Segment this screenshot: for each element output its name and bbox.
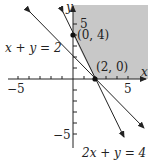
graph-canvas: y x 5 −5 −5 5 (0, 4) (2, 0) x + y = 2 2x… [0, 0, 151, 160]
y-axis-label: y [65, 0, 73, 14]
x-axis-label: x [141, 65, 148, 79]
tick-label-y-neg5: −5 [53, 128, 71, 142]
point-label-2-0: (2, 0) [96, 60, 128, 74]
point-2-0 [92, 76, 97, 81]
line-label-2x-plus-y-eq-4: 2x + y = 4 [81, 146, 146, 160]
point-label-0-4: (0, 4) [77, 28, 109, 42]
tick-label-x-neg5: −5 [7, 82, 25, 96]
line-label-x-plus-y-eq-2: x + y = 2 [5, 41, 62, 55]
point-0-4 [70, 32, 75, 37]
graph-figure: y x 5 −5 −5 5 (0, 4) (2, 0) x + y = 2 2x… [0, 0, 151, 160]
tick-label-x-5: 5 [124, 82, 132, 96]
